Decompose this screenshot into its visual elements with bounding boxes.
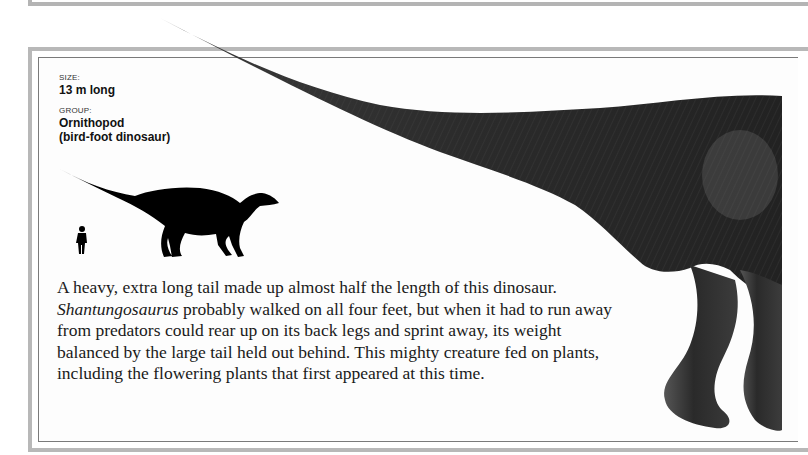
human-silhouette-icon bbox=[76, 226, 87, 254]
species-name: Shantungosaurus bbox=[57, 299, 179, 319]
dinosaur-silhouette-icon bbox=[60, 169, 279, 257]
description-part1: A heavy, extra long tail made up almost … bbox=[57, 277, 557, 297]
description-paragraph: A heavy, extra long tail made up almost … bbox=[57, 277, 617, 385]
